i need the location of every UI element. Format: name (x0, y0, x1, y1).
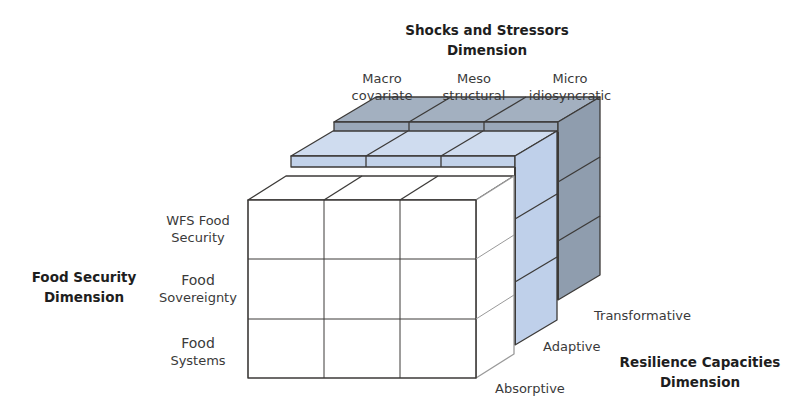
absorptive-layer (248, 176, 514, 378)
column-label-line1: Micro (520, 70, 620, 87)
layer-label-adaptive: Adaptive (543, 338, 601, 355)
layer-label-transformative: Transformative (594, 307, 691, 324)
row-label-line2: Systems (154, 352, 242, 369)
food-security-title-line2: Dimension (24, 287, 144, 307)
food-security-title-line1: Food Security (24, 267, 144, 287)
row-label-line1: WFS Food (154, 212, 242, 229)
row-label-line1: Food (154, 272, 242, 289)
resilience-dimension-title: Resilience Capacities Dimension (614, 352, 786, 392)
resilience-title-line1: Resilience Capacities (614, 352, 786, 372)
row-label-food-systems: Food Systems (154, 335, 242, 369)
column-label-macro: Macro covariate (337, 70, 427, 104)
row-label-line1: Food (154, 335, 242, 352)
column-label-meso: Meso structural (429, 70, 519, 104)
food-security-dimension-title: Food Security Dimension (24, 267, 144, 307)
row-label-wfs-food-security: WFS Food Security (154, 212, 242, 246)
layer-label-absorptive: Absorptive (495, 380, 565, 397)
column-label-micro: Micro idiosyncratic (520, 70, 620, 104)
shocks-title-line2: Dimension (398, 40, 576, 60)
row-label-line2: Security (154, 229, 242, 246)
resilience-title-line2: Dimension (614, 372, 786, 392)
column-label-line2: idiosyncratic (520, 87, 620, 104)
row-label-food-sovereignty: Food Sovereignty (154, 272, 242, 306)
column-label-line1: Meso (429, 70, 519, 87)
column-label-line2: structural (429, 87, 519, 104)
row-label-line2: Sovereignty (154, 289, 242, 306)
column-label-line2: covariate (337, 87, 427, 104)
shocks-dimension-title: Shocks and Stressors Dimension (398, 20, 576, 60)
shocks-title-line1: Shocks and Stressors (398, 20, 576, 40)
column-label-line1: Macro (337, 70, 427, 87)
